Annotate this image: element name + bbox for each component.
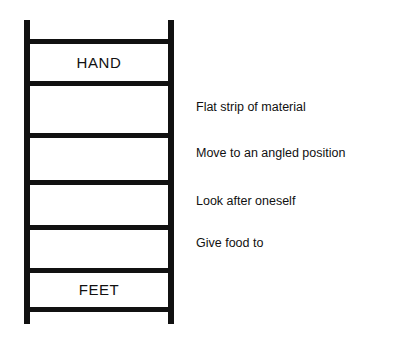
clue-item-2: Move to an angled position [196, 146, 345, 160]
ladder-rung-4 [26, 180, 172, 185]
ladder-rung-6 [26, 268, 172, 273]
ladder-rung-5 [26, 225, 172, 230]
ladder-rung-1 [26, 39, 172, 44]
ladder-cell-bottom-word: FEET [26, 281, 172, 298]
clue-item-4: Give food to [196, 236, 263, 250]
worksheet-page: HAND FEET Flat strip of material Move to… [0, 0, 403, 353]
ladder-cell-top-word: HAND [26, 54, 172, 71]
ladder-rung-7 [26, 307, 172, 312]
ladder-rung-2 [26, 81, 172, 86]
clue-item-3: Look after oneself [196, 194, 295, 208]
word-ladder-diagram: HAND FEET [0, 0, 403, 353]
clue-item-1: Flat strip of material [196, 100, 306, 114]
ladder-rung-3 [26, 133, 172, 138]
